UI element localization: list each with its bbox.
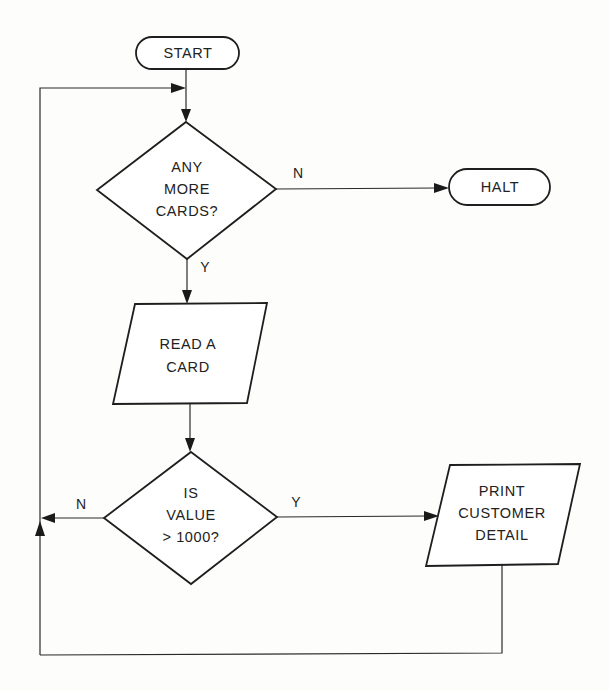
branch-label-value-yes: Y bbox=[291, 494, 301, 510]
arrowhead-down-icon bbox=[182, 290, 192, 304]
decision-more-cards-line-3: CARDS? bbox=[156, 203, 218, 219]
node-start-label: START bbox=[163, 45, 212, 61]
connector-more-cards-to-halt bbox=[276, 188, 438, 189]
arrowhead-right-icon bbox=[434, 183, 449, 193]
decision-more-cards-line-1: ANY bbox=[171, 159, 203, 175]
arrowhead-up-icon bbox=[35, 521, 45, 536]
node-read-card: READ A CARD bbox=[113, 303, 267, 404]
print-detail-line-3: DETAIL bbox=[475, 527, 528, 543]
read-card-line-1: READ A bbox=[160, 336, 217, 352]
arrowhead-down-icon bbox=[181, 109, 191, 122]
arrowhead-down-icon bbox=[185, 438, 195, 452]
branch-label-value-no: N bbox=[76, 496, 86, 512]
decision-value-line-2: VALUE bbox=[166, 507, 215, 523]
connector-print-to-loop bbox=[40, 565, 502, 655]
arrowhead-left-icon bbox=[41, 513, 55, 523]
arrowhead-right-icon bbox=[171, 83, 186, 93]
node-halt: HALT bbox=[449, 169, 550, 205]
connector-value-yes-to-print bbox=[277, 516, 428, 517]
node-print-customer-detail: PRINT CUSTOMER DETAIL bbox=[426, 464, 580, 566]
node-halt-label: HALT bbox=[481, 179, 519, 195]
branch-label-more-cards-yes: Y bbox=[200, 259, 210, 275]
branch-label-more-cards-no: N bbox=[293, 165, 303, 181]
decision-value-line-1: IS bbox=[184, 485, 199, 501]
node-decision-more-cards: ANY MORE CARDS? bbox=[97, 122, 276, 259]
read-card-line-2: CARD bbox=[166, 359, 210, 375]
print-detail-line-2: CUSTOMER bbox=[458, 505, 546, 521]
decision-more-cards-line-2: MORE bbox=[164, 181, 210, 197]
node-decision-value: IS VALUE > 1000? bbox=[104, 452, 277, 584]
node-start: START bbox=[136, 37, 239, 69]
print-detail-line-1: PRINT bbox=[479, 483, 526, 499]
decision-value-line-3: > 1000? bbox=[162, 529, 219, 545]
flowchart-diagram: START ANY MORE CARDS? N Y HALT READ A CA… bbox=[0, 0, 609, 691]
